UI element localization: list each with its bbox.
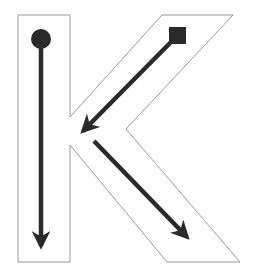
stroke-1-vertical — [31, 29, 51, 246]
stroke-2-upper-diagonal — [83, 27, 186, 131]
letter-k-outline — [18, 15, 240, 262]
stroke-3-arrow-icon — [94, 141, 187, 237]
letter-k-stroke-diagram — [0, 0, 254, 278]
stroke-3-lower-diagonal — [94, 141, 187, 237]
stroke-2-arrow-icon — [83, 40, 173, 131]
